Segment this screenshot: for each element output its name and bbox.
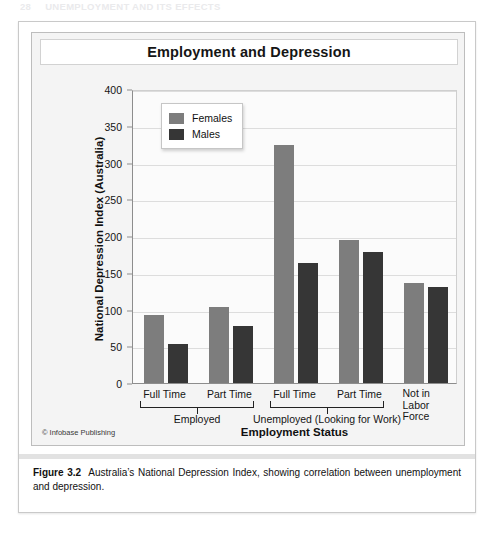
chart-legend: FemalesMales bbox=[161, 103, 243, 149]
bar-male bbox=[233, 326, 253, 383]
y-axis-tick-label: 250 bbox=[82, 194, 122, 206]
chart-panel: Employment and Depression National Depre… bbox=[31, 32, 465, 446]
publisher-credit: © Infobase Publishing bbox=[42, 428, 115, 437]
y-axis-tick-label: 400 bbox=[82, 84, 122, 96]
y-axis-tick-label: 0 bbox=[82, 378, 122, 390]
gridline bbox=[133, 238, 456, 239]
bar-male bbox=[428, 287, 448, 383]
bar-female bbox=[404, 283, 424, 383]
page-number: 28 bbox=[20, 1, 31, 11]
legend-item: Males bbox=[169, 126, 232, 142]
gridline bbox=[133, 165, 456, 166]
bar-male bbox=[298, 263, 318, 383]
figure-caption-label: Figure 3.2 bbox=[33, 467, 81, 478]
bar-female bbox=[274, 145, 294, 383]
y-axis-tick-label: 200 bbox=[82, 231, 122, 243]
x-axis-title: Employment Status bbox=[132, 426, 457, 438]
legend-item: Females bbox=[169, 110, 232, 126]
y-axis-tick-label: 150 bbox=[82, 268, 122, 280]
gridline bbox=[133, 275, 456, 276]
figure-caption: Figure 3.2 Australia’s National Depressi… bbox=[33, 466, 461, 494]
bar-male bbox=[363, 252, 383, 383]
chart-title-bar: Employment and Depression bbox=[40, 39, 458, 65]
figure-caption-text: Australia’s National Depression Index, s… bbox=[33, 467, 461, 492]
employed-bracket bbox=[140, 401, 254, 408]
gridline bbox=[133, 201, 456, 202]
y-axis-tick-mark bbox=[127, 200, 132, 201]
page-running-head: 28UNEMPLOYMENT AND ITS EFFECTS bbox=[20, 0, 350, 11]
y-axis-tick-mark bbox=[127, 90, 132, 91]
legend-label: Males bbox=[192, 128, 220, 140]
legend-swatch-male bbox=[169, 129, 184, 140]
y-axis-tick-mark bbox=[127, 163, 132, 164]
y-axis-tick-mark bbox=[127, 273, 132, 274]
caption-divider bbox=[19, 454, 475, 459]
figure-box: Employment and Depression National Depre… bbox=[18, 21, 476, 513]
y-axis-tick-mark bbox=[127, 347, 132, 348]
figure-page: 28UNEMPLOYMENT AND ITS EFFECTS Employmen… bbox=[0, 0, 494, 533]
bar-female bbox=[144, 315, 164, 383]
bar-female bbox=[209, 307, 229, 383]
y-axis-tick-mark bbox=[127, 384, 132, 385]
y-axis-tick-mark bbox=[127, 237, 132, 238]
gridline bbox=[133, 91, 456, 92]
y-axis-tick-label: 100 bbox=[82, 305, 122, 317]
chart-title: Employment and Depression bbox=[147, 44, 351, 60]
legend-swatch-female bbox=[169, 113, 184, 124]
x-axis-tick-label-line: Not in bbox=[403, 388, 457, 400]
y-axis-tick-label: 50 bbox=[82, 341, 122, 353]
x-axis-tick-label: Part Time bbox=[315, 388, 405, 400]
y-axis-tick-label: 300 bbox=[82, 158, 122, 170]
bar-female bbox=[339, 240, 359, 383]
y-axis-tick-mark bbox=[127, 126, 132, 127]
unemployed-bracket bbox=[270, 401, 384, 408]
bar-male bbox=[168, 344, 188, 383]
unemployed-group-label: Unemployed (Looking for Work) bbox=[237, 413, 417, 425]
running-head-text: UNEMPLOYMENT AND ITS EFFECTS bbox=[45, 1, 220, 11]
y-axis-tick-mark bbox=[127, 310, 132, 311]
legend-label: Females bbox=[192, 112, 232, 124]
y-axis-tick-label: 350 bbox=[82, 121, 122, 133]
plot-area: FemalesMales bbox=[132, 90, 457, 384]
